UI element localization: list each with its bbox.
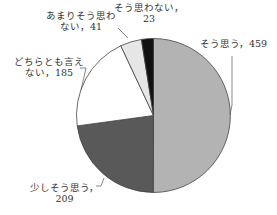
label-sou-omou: そう思う，459	[200, 38, 267, 49]
leader-line-sou-omou	[230, 56, 232, 115]
label-sou-omowanai: そう思わない， 23	[114, 2, 184, 24]
label-amari-sou-omowanai: あまりそう思わ ない，41	[46, 10, 116, 32]
pie-slices	[76, 38, 230, 192]
slice-sou-omou	[153, 39, 230, 193]
slice-sukoshi-sou-omou	[77, 116, 153, 193]
leader-line-amari	[118, 28, 128, 38]
label-dochira-tomo-ienai: どちらとも言え ない，185	[14, 56, 84, 78]
label-sukoshi-sou-omou: 少しそう思う， 209	[30, 182, 99, 204]
